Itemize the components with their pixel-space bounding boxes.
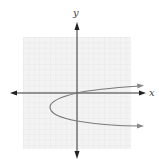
curve-upper-arrow-icon	[137, 84, 144, 89]
y-axis-bottom-arrow-icon	[75, 151, 80, 159]
graph-svg: y x	[0, 0, 159, 165]
x-axis-right-arrow-icon	[139, 91, 146, 96]
y-axis-label: y	[72, 7, 79, 18]
x-axis-label: x	[149, 87, 155, 98]
curve-lower-arrow-icon	[137, 124, 144, 129]
coordinate-plane-figure: y x	[0, 0, 159, 165]
y-axis-top-arrow-icon	[75, 22, 80, 30]
x-axis-left-arrow-icon	[10, 91, 17, 96]
